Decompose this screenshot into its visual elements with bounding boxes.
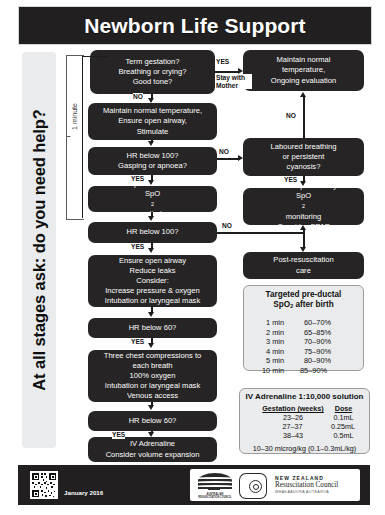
arrow-b3-r2 xyxy=(238,155,243,161)
flow-box-hr100: HR below 100? xyxy=(88,222,217,243)
flow-box-hr100-gasping: HR below 100? Gasping or apnoea? xyxy=(88,147,217,175)
adrenaline-gestation: 23–26 xyxy=(240,413,332,422)
connector-b3-r2 xyxy=(217,158,239,160)
spo2-rows: 1 min 60–70% 2 min 65–85% 3 min 70–90% 4… xyxy=(244,318,363,376)
flow-box-ensure-airway-cpap: Ensure open airway SpO2 monitoring Consi… xyxy=(243,188,364,225)
adrenaline-row: 27–37 0.25mL xyxy=(240,422,369,431)
flow-box-laboured-line3: cyanosis? xyxy=(271,162,337,172)
flow-box-post-resus-line2: care xyxy=(273,266,333,276)
adrenaline-gestation: 38–43 xyxy=(240,431,332,440)
side-banner: At all stages ask: do you need help? xyxy=(22,52,56,448)
arrow-b1-b2 xyxy=(148,98,154,103)
spo2-time: 10 min xyxy=(244,366,300,376)
label-yes-6: YES xyxy=(112,431,125,439)
flow-box-iv-adrenaline-line2: Consider volume expansion xyxy=(106,450,200,460)
spo2-panel-title: Targeted pre-ductal SpO2 after birth xyxy=(244,286,363,311)
australian-resuscitation-council-logo-icon: AUSTRALIAN RESUSCITATION COUNCIL xyxy=(196,472,234,498)
poster-footer: January 2016 AUSTRALIAN RESUSCITATION CO… xyxy=(18,465,370,505)
adrenaline-col-gestation: Gestation (weeks) xyxy=(240,404,332,413)
flow-box-post-resuscitation-care: Post-resuscitation care xyxy=(243,252,364,279)
flow-box-cpap-line2: SpO2 monitoring xyxy=(270,191,337,222)
flow-box-ongoing-line1: Maintain normal xyxy=(271,55,336,65)
flow-box-hr60-second: HR below 60? xyxy=(88,411,217,431)
arrow-r4-r3 xyxy=(300,225,306,230)
arrow-b8-b9 xyxy=(148,405,154,410)
adrenaline-row: 38–43 0.5mL xyxy=(240,431,369,440)
flow-box-ensure-airway-line5: Intubation or laryngeal mask xyxy=(105,296,200,306)
poster-canvas: Newborn Life Support At all stages ask: … xyxy=(0,0,385,515)
arrow-r2-r1 xyxy=(300,92,306,97)
connector-feedback-top xyxy=(82,56,108,57)
spo2-time: 4 min xyxy=(244,347,304,357)
nzrc-wordmark: NEW ZEALAND Resuscitation Council WHAKAA… xyxy=(275,476,338,494)
one-minute-label: 1 minute xyxy=(71,95,78,139)
adrenaline-dose: 0.5mL xyxy=(332,431,369,440)
flow-box-ensure-airway-line2: Reduce leaks xyxy=(105,266,200,276)
adrenaline-panel-title: IV Adrenaline 1:10,000 solution xyxy=(240,389,369,401)
label-yes-4: YES xyxy=(284,176,297,184)
label-no-2: NO xyxy=(219,148,229,156)
flow-box-laboured-breathing: Laboured breathing or persistent cyanosi… xyxy=(243,138,364,176)
adrenaline-dosing-panel: IV Adrenaline 1:10,000 solution Gestatio… xyxy=(239,388,370,454)
nz-resuscitation-council-logo-icon xyxy=(239,472,269,498)
flow-box-iv-adrenaline: IV Adrenaline Consider volume expansion xyxy=(88,437,217,462)
label-yes-2: YES xyxy=(131,175,144,183)
spo2-row: 2 min 65–85% xyxy=(244,328,363,338)
flow-box-term-gestation-line1: Term gestation? xyxy=(119,57,187,67)
adrenaline-col-dose: Dose xyxy=(332,404,369,413)
flow-box-term-gestation: Term gestation? Breathing or crying? Goo… xyxy=(90,50,215,94)
label-no-1: NO xyxy=(133,93,143,101)
spo2-time: 2 min xyxy=(244,328,304,338)
flow-box-hr60-second-line1: HR below 60? xyxy=(129,416,177,426)
arrow-b4-b5 xyxy=(148,216,154,221)
flow-box-ongoing-line2: temperature, xyxy=(271,65,336,75)
arc-logo-text: AUSTRALIAN RESUSCITATION COUNCIL xyxy=(196,493,234,498)
adrenaline-row: 23–26 0.1mL xyxy=(240,413,369,422)
arrow-b7-b8 xyxy=(148,343,154,348)
spo2-range: 80–90% xyxy=(304,356,363,366)
spo2-range: 65–85% xyxy=(304,328,363,338)
spo2-range: 60–70% xyxy=(304,318,363,328)
flow-box-hr100-gasping-line1: HR below 100? xyxy=(118,151,187,161)
label-yes-5: YES xyxy=(131,338,144,346)
flow-box-compressions-line1: Three chest compressions to xyxy=(104,351,202,361)
label-no-4: NO xyxy=(286,112,296,120)
adrenaline-table-header: Gestation (weeks) Dose xyxy=(240,404,369,413)
spo2-time: 1 min xyxy=(244,318,304,328)
flow-box-ensure-airway-line3: Consider: xyxy=(105,276,200,286)
side-banner-text: At all stages ask: do you need help? xyxy=(30,109,49,391)
flow-box-ensure-airway-reduce-leaks: Ensure open airway Reduce leaks Consider… xyxy=(88,255,217,307)
adrenaline-dose: 0.25mL xyxy=(331,422,369,431)
connector-feedback-vertical xyxy=(82,56,83,218)
spo2-time: 3 min xyxy=(244,337,304,347)
arrow-b2-b3 xyxy=(148,141,154,146)
connector-b1-r1 xyxy=(215,71,239,73)
flow-box-compressions-line4: Intubation or laryngeal mask xyxy=(104,381,202,391)
flow-box-laboured-line1: Laboured breathing xyxy=(271,142,337,152)
flow-box-maintain-temp-line2: Ensure open airway, xyxy=(103,116,202,126)
publication-date: January 2016 xyxy=(64,489,103,496)
flow-box-maintain-temp-line3: Stimulate xyxy=(103,127,202,137)
flow-box-chest-compressions: Three chest compressions to each breath … xyxy=(88,350,217,402)
flow-box-laboured-line2: or persistent xyxy=(271,152,337,162)
arrow-b6-b7 xyxy=(148,312,154,317)
connector-r3-r4 xyxy=(303,228,305,249)
qr-code-icon xyxy=(30,471,58,499)
flow-box-hr60-first: HR below 60? xyxy=(88,318,217,338)
spo2-range: 75–90% xyxy=(304,347,363,357)
label-yes-3: YES xyxy=(131,243,144,251)
flow-box-ppv: Positive pressure ventilation SpO2 monit… xyxy=(88,186,217,212)
arrow-b3-b4 xyxy=(148,180,154,185)
flow-box-term-gestation-line3: Good tone? xyxy=(119,77,187,87)
label-no-3: NO xyxy=(222,222,232,230)
connector-r2-r1 xyxy=(303,96,305,138)
flow-box-ongoing-line3: Ongoing evaluation xyxy=(271,76,336,86)
flow-box-compressions-line2: each breath xyxy=(104,361,202,371)
flow-box-hr100-line1: HR below 100? xyxy=(127,227,179,237)
flow-box-compressions-line5: Venous access xyxy=(104,391,202,401)
arrow-r2-r3 xyxy=(300,181,306,186)
label-yes-1: YES xyxy=(216,58,229,66)
adrenaline-gestation: 27–37 xyxy=(240,422,331,431)
poster-title-bar: Newborn Life Support xyxy=(18,6,372,45)
flow-box-hr100-gasping-line2: Gasping or apnoea? xyxy=(118,161,187,171)
